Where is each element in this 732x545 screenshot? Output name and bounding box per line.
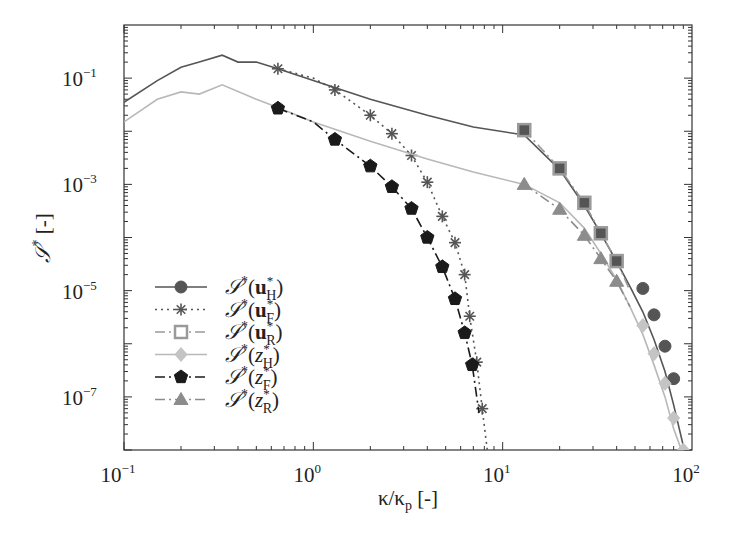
y-tick-label: 10−1 [62,65,97,91]
x-tick-label: 101 [483,461,510,487]
x-tick-label: 100 [294,461,322,487]
series-layer [124,55,689,457]
y-tick-label: 10−7 [62,384,97,410]
spectrum-chart: 10−1100101102 10−110−310−510−7 κ/κp [-] … [0,0,732,545]
series-1 [272,63,488,450]
x-tick-label: 10−1 [101,461,136,487]
x-tick-label: 102 [672,461,700,487]
y-tick-label: 10−5 [62,278,97,304]
series-2 [518,124,630,290]
y-tick-label: 10−3 [62,171,97,197]
x-axis-tick-labels: 10−1100101102 [101,461,700,487]
legend: 𝒮*(u*H)𝒮*(u*F)𝒮*(u*R)𝒮*(z*H)𝒮*(z*F)𝒮*(z*… [155,273,283,416]
legend-label: 𝒮*(z*R) [225,386,279,416]
y-axis-tick-labels: 10−110−310−510−7 [62,65,97,410]
y-axis-title: 𝒮* [-] [30,213,55,262]
series-4 [271,101,479,413]
series-5 [517,177,630,306]
x-axis-title: κ/κp [-] [378,486,438,513]
legend-item: 𝒮*(z*R) [155,386,279,416]
series-3 [124,85,689,457]
